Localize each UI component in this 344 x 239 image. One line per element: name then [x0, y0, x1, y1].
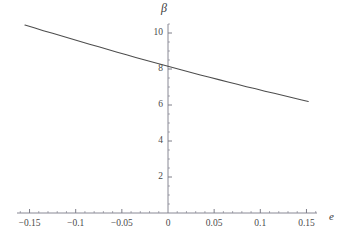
x-tick-label: 0.1	[243, 218, 277, 228]
x-tick-label: −0.05	[105, 218, 139, 228]
y-tick-label: 2	[143, 171, 163, 181]
y-tick-label: 4	[143, 135, 163, 145]
x-tick-label: 0.15	[289, 218, 323, 228]
y-tick-label: 6	[143, 99, 163, 109]
y-tick-label: 10	[143, 27, 163, 37]
x-axis-label: e	[329, 210, 334, 222]
x-tick-label: −0.15	[13, 218, 47, 228]
y-tick-label: 8	[143, 63, 163, 73]
plot-background	[0, 0, 344, 239]
x-tick-label: 0	[151, 218, 185, 228]
plot-canvas	[0, 0, 344, 239]
x-tick-label: 0.05	[197, 218, 231, 228]
y-axis-label: β	[161, 1, 167, 16]
x-tick-label: −0.1	[59, 218, 93, 228]
